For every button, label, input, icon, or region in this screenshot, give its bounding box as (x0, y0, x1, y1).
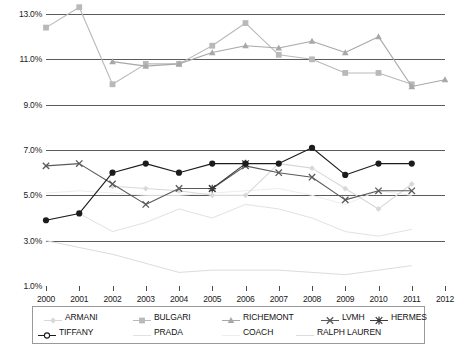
x-tick-mark (312, 286, 313, 291)
legend-marker (37, 327, 57, 338)
x-tick-mark (412, 286, 413, 291)
legend-item-ralph-lauren[interactable]: RALPH LAUREN (295, 325, 381, 340)
legend-key-none-icon (221, 330, 241, 341)
y-tick-label: 13.0% (19, 9, 42, 19)
plot-area (46, 14, 445, 286)
x-tick-mark (379, 286, 380, 291)
legend-row-1: ARMANIBULGARIRICHEMONTLVMHHERMES (37, 310, 420, 325)
x-tick-mark (279, 286, 280, 291)
series-line (46, 241, 412, 275)
legend-label: BULGARI (154, 312, 191, 323)
data-point (76, 4, 82, 10)
legend-item-prada[interactable]: PRADA (132, 325, 183, 340)
legend-label: TIFFANY (59, 327, 93, 338)
data-point (176, 170, 182, 176)
data-point (139, 318, 145, 324)
y-axis: 13.0%11.0%9.0%7.0%5.0%3.0%1.0% (0, 0, 46, 300)
legend-item-hermes[interactable]: HERMES (369, 310, 427, 325)
legend-marker (221, 312, 241, 323)
legend-label: LVMH (342, 312, 365, 323)
data-point (209, 161, 215, 167)
data-point (409, 161, 415, 167)
y-tick-label: 9.0% (23, 100, 42, 110)
x-tick-label: 2008 (303, 294, 321, 304)
data-point (243, 20, 249, 26)
data-point (375, 33, 382, 39)
data-point (342, 197, 348, 203)
legend-label: PRADA (154, 327, 183, 338)
legend-item-coach[interactable]: COACH (221, 325, 273, 340)
legend-label: RALPH LAUREN (317, 327, 381, 338)
chart-legend: ARMANIBULGARIRICHEMONTLVMHHERMES TIFFANY… (32, 306, 425, 344)
series-richemont (109, 33, 448, 89)
x-tick-mark (246, 286, 247, 291)
series-line (46, 7, 412, 84)
data-point (342, 172, 348, 178)
data-point (276, 52, 282, 58)
data-point (43, 217, 49, 223)
data-point (442, 76, 449, 82)
y-tick-label: 7.0% (23, 145, 42, 155)
series-line (46, 164, 412, 205)
data-point (375, 317, 383, 325)
x-tick-mark (113, 286, 114, 291)
x-tick-label: 2004 (170, 294, 188, 304)
data-point (50, 318, 56, 324)
legend-marker (369, 312, 389, 323)
x-tick-mark (146, 286, 147, 291)
x-tick-label: 2001 (70, 294, 88, 304)
data-point (309, 56, 315, 62)
data-point (242, 161, 248, 167)
legend-marker (43, 312, 63, 323)
data-point (309, 165, 315, 171)
y-tick-label: 1.0% (23, 281, 42, 291)
legend-label: ARMANI (65, 312, 97, 323)
legend-key-none-icon (132, 330, 152, 341)
legend-marker (132, 327, 152, 338)
x-tick-label: 2009 (336, 294, 354, 304)
x-tick-label: 2007 (270, 294, 288, 304)
legend-item-bulgari[interactable]: BULGARI (132, 310, 191, 325)
legend-item-tiffany[interactable]: TIFFANY (37, 325, 93, 340)
legend-item-richemont[interactable]: RICHEMONT (221, 310, 294, 325)
legend-marker (221, 327, 241, 338)
x-tick-mark (79, 286, 80, 291)
data-point (242, 42, 249, 48)
x-tick-label: 2003 (137, 294, 155, 304)
x-tick-label: 2002 (103, 294, 121, 304)
legend-marker (295, 327, 315, 338)
data-point (309, 38, 316, 44)
x-tick-label: 2005 (203, 294, 221, 304)
data-point (342, 186, 348, 192)
data-point (209, 43, 215, 49)
series-ralph-lauren (46, 241, 412, 275)
line-chart: 13.0%11.0%9.0%7.0%5.0%3.0%1.0% 200020012… (0, 0, 457, 354)
series-prada (46, 204, 412, 236)
y-tick-label: 5.0% (23, 190, 42, 200)
data-point (276, 161, 282, 167)
data-point (309, 145, 315, 151)
series-armani (110, 161, 415, 212)
y-tick-label: 11.0% (20, 54, 42, 64)
data-point (208, 185, 216, 193)
legend-row-2: TIFFANYPRADACOACHRALPH LAUREN (37, 325, 420, 340)
y-tick-label: 3.0% (23, 236, 42, 246)
legend-key-none-icon (295, 330, 315, 341)
data-point (76, 210, 82, 216)
series-line (212, 164, 245, 189)
x-tick-mark (46, 286, 47, 291)
x-tick-label: 2000 (37, 294, 55, 304)
x-tick-label: 2012 (436, 294, 454, 304)
x-tick-mark (345, 286, 346, 291)
data-point (109, 58, 116, 64)
legend-marker (320, 312, 340, 323)
x-tick-mark (212, 286, 213, 291)
x-tick-label: 2010 (369, 294, 387, 304)
series-line (113, 164, 412, 209)
legend-item-lvmh[interactable]: LVMH (320, 310, 365, 325)
data-point (143, 161, 149, 167)
legend-label: COACH (243, 327, 273, 338)
data-point (143, 186, 149, 192)
legend-marker (132, 312, 152, 323)
legend-item-armani[interactable]: ARMANI (43, 310, 97, 325)
